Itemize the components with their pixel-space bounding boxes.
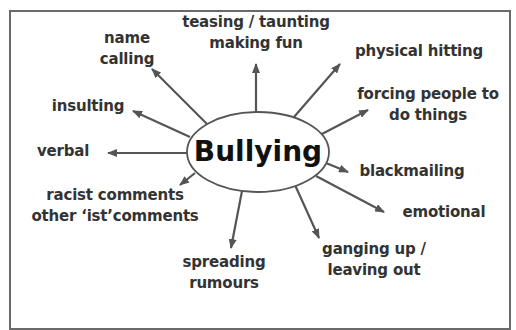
branch-teasing: teasing / taunting making fun (172, 12, 340, 54)
branch-physical-hitting: physical hitting (344, 41, 494, 62)
arrow-insulting (133, 111, 190, 137)
branch-ganging-up: ganging up / leaving out (314, 239, 434, 281)
arrow-name-calling (152, 69, 207, 124)
branch-blackmailing: blackmailing (350, 161, 474, 182)
branch-forcing: forcing people to do things (343, 84, 513, 126)
arrow-racist (180, 173, 195, 185)
branch-name-calling: name calling (82, 28, 172, 70)
branch-spreading-rumours: spreading rumours (172, 252, 276, 294)
branch-insulting: insulting (46, 96, 130, 117)
branch-racist-comments: racist comments other ‘ist’comments (24, 185, 206, 227)
arrow-ganging-up (295, 185, 319, 238)
arrow-physical-hitting (294, 64, 340, 117)
branch-emotional: emotional (394, 202, 494, 223)
branch-verbal: verbal (30, 141, 96, 162)
arrow-blackmailing (326, 163, 348, 172)
center-topic: Bullying (188, 132, 328, 172)
arrow-spreading (231, 191, 242, 248)
